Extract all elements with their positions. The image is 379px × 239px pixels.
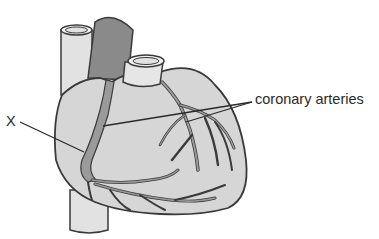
label-x: X [6, 114, 16, 129]
aorta [123, 55, 164, 87]
heart-diagram [0, 0, 379, 239]
heart-body [55, 68, 247, 214]
label-coronary-arteries: coronary arteries [255, 92, 364, 107]
